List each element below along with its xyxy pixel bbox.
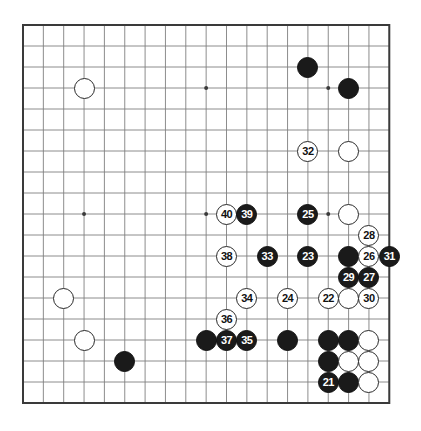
- move-stone-24: 24: [277, 288, 298, 309]
- black-stone: [297, 57, 318, 78]
- white-stone: [358, 351, 379, 372]
- star-point: [204, 86, 208, 90]
- move-stone-32: 32: [297, 141, 318, 162]
- move-number-label: 23: [302, 251, 313, 262]
- star-point: [326, 212, 330, 216]
- move-number-label: 36: [221, 314, 232, 325]
- move-stone-22: 22: [318, 288, 339, 309]
- black-stone: [277, 330, 298, 351]
- move-stone-38: 38: [216, 246, 237, 267]
- move-number-label: 32: [302, 146, 313, 157]
- white-stone: [338, 204, 359, 225]
- move-number-label: 30: [363, 293, 374, 304]
- move-stone-29: 29: [338, 267, 359, 288]
- move-number-label: 25: [302, 209, 313, 220]
- white-stone: [338, 288, 359, 309]
- move-stone-28: 28: [358, 225, 379, 246]
- black-stone: [114, 351, 135, 372]
- black-stone: [338, 78, 359, 99]
- move-number-label: 28: [363, 230, 374, 241]
- black-stone: [338, 372, 359, 393]
- move-stone-23: 23: [297, 246, 318, 267]
- move-number-label: 29: [343, 272, 354, 283]
- black-stone: [196, 330, 217, 351]
- move-number-label: 21: [323, 377, 334, 388]
- move-number-label: 38: [221, 251, 232, 262]
- white-stone: [358, 372, 379, 393]
- move-stone-31: 31: [379, 246, 400, 267]
- move-number-label: 39: [241, 209, 252, 220]
- move-number-label: 35: [241, 335, 252, 346]
- star-point: [204, 212, 208, 216]
- move-stone-21: 21: [318, 372, 339, 393]
- move-stone-26: 26: [358, 246, 379, 267]
- white-stone: [358, 330, 379, 351]
- black-stone: [318, 351, 339, 372]
- move-number-label: 40: [221, 209, 232, 220]
- move-number-label: 33: [262, 251, 273, 262]
- move-number-label: 31: [384, 251, 395, 262]
- move-number-label: 26: [363, 251, 374, 262]
- move-stone-36: 36: [216, 309, 237, 330]
- move-stone-39: 39: [236, 204, 257, 225]
- black-stone: [338, 330, 359, 351]
- move-stone-27: 27: [358, 267, 379, 288]
- move-number-label: 37: [221, 335, 232, 346]
- white-stone: [338, 351, 359, 372]
- move-number-label: 24: [282, 293, 293, 304]
- move-stone-35: 35: [236, 330, 257, 351]
- move-stone-40: 40: [216, 204, 237, 225]
- move-number-label: 27: [363, 272, 374, 283]
- move-stone-25: 25: [297, 204, 318, 225]
- white-stone: [338, 141, 359, 162]
- black-stone: [318, 330, 339, 351]
- move-stone-30: 30: [358, 288, 379, 309]
- go-diagram: 3240392528383323263129273424223036373521: [0, 0, 421, 431]
- white-stone: [74, 330, 95, 351]
- white-stone: [53, 288, 74, 309]
- move-stone-33: 33: [257, 246, 278, 267]
- move-number-label: 22: [323, 293, 334, 304]
- move-number-label: 34: [241, 293, 252, 304]
- star-point: [326, 86, 330, 90]
- black-stone: [338, 246, 359, 267]
- move-stone-37: 37: [216, 330, 237, 351]
- white-stone: [74, 78, 95, 99]
- star-point: [82, 212, 86, 216]
- move-stone-34: 34: [236, 288, 257, 309]
